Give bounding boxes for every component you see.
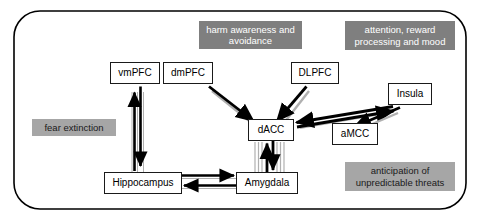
node-dlpfc-label: DLPFC <box>299 68 332 78</box>
node-insula-label: Insula <box>397 89 424 99</box>
connector-vmpfc-hippocampus <box>132 87 144 173</box>
node-hippocampus[interactable]: Hippocampus <box>104 172 182 194</box>
function-label-attention-reward: attention, reward processing and mood <box>345 21 455 50</box>
function-label-fear-extinction-text: fear extinction <box>44 122 103 134</box>
function-label-anticipation-text: anticipation of unpredictable threats <box>348 165 452 188</box>
node-hippocampus-label: Hippocampus <box>112 178 173 188</box>
brain-network-diagram: vmPFC dmPFC DLPFC Insula dACC aMCC Hippo… <box>0 0 480 221</box>
function-label-harm-awareness-text: harm awareness and avoidance <box>202 24 299 47</box>
node-amcc[interactable]: aMCC <box>332 123 378 145</box>
function-label-attention-reward-text: attention, reward processing and mood <box>348 24 452 47</box>
function-label-fear-extinction: fear extinction <box>32 119 116 136</box>
node-dacc-label: dACC <box>258 125 285 135</box>
node-amygdala-label: Amygdala <box>245 178 289 188</box>
node-dmpfc[interactable]: dmPFC <box>163 62 213 84</box>
function-label-harm-awareness: harm awareness and avoidance <box>199 21 302 49</box>
node-vmpfc[interactable]: vmPFC <box>110 62 160 84</box>
connector-dacc-amygdala <box>255 141 284 173</box>
node-dmpfc-label: dmPFC <box>171 68 205 78</box>
function-label-anticipation: anticipation of unpredictable threats <box>345 162 455 191</box>
node-dlpfc[interactable]: DLPFC <box>291 62 339 84</box>
node-insula[interactable]: Insula <box>388 83 432 105</box>
node-amcc-label: aMCC <box>341 129 369 139</box>
node-dacc[interactable]: dACC <box>248 119 294 141</box>
node-vmpfc-label: vmPFC <box>118 68 151 78</box>
node-amygdala[interactable]: Amygdala <box>236 172 298 194</box>
connector-hippocampus-amygdala <box>181 176 237 189</box>
